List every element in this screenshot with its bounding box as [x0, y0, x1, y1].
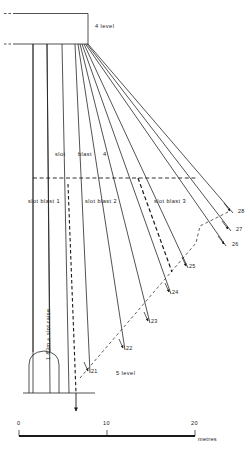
level-4-drive-outline: [15, 14, 88, 45]
scale-tick-10-label: 10: [103, 421, 110, 427]
level-4-label: 4 level: [95, 24, 114, 30]
blast-ring-section-diagram: [0, 0, 247, 449]
ring-number-24: 24: [172, 290, 179, 295]
slot-blast-3-label: slot blast 3: [154, 199, 186, 205]
slot-raise-outline: [29, 351, 59, 393]
slot-blast-3-dashed-boundary: [138, 178, 172, 272]
ring-number-28: 28: [238, 209, 245, 214]
level-4-drive-left-stubs: [4, 14, 15, 45]
slot-blast-1-label: slot blast 1: [28, 199, 60, 205]
slot-blast-2-label: slot blast 2: [85, 199, 117, 205]
blast-ring-fan: [33, 44, 233, 393]
ring-number-22: 22: [126, 346, 133, 351]
slot-blast-4-label-part3: 4: [103, 152, 107, 158]
ring-number-27: 27: [236, 227, 243, 232]
ring-number-26: 26: [232, 242, 239, 247]
ring-number-25: 25: [189, 264, 196, 269]
scale-bar: [19, 430, 195, 436]
level-5-label: 5 level: [116, 371, 135, 377]
slot-raise-label: 1.83m ⌀ slot raise: [46, 308, 51, 360]
slot-blast-4-label-part1: slot: [55, 152, 66, 158]
scale-tick-20-label: 20: [191, 421, 198, 427]
scale-unit-label: metres: [198, 437, 217, 443]
stope-back-dashed-profile: [80, 212, 228, 378]
slot-raise-dashed-centreline: [68, 184, 76, 393]
ring-arrowheads: [84, 203, 230, 371]
scale-tick-0-label: 0: [17, 421, 20, 427]
ring-number-23: 23: [151, 319, 158, 324]
slot-blast-4-label-part2: blast: [78, 152, 92, 158]
ring-number-21: 21: [91, 369, 98, 374]
